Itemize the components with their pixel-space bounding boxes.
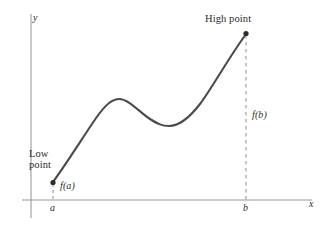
f-of-a-label: f(a): [60, 181, 75, 192]
function-curve: [53, 34, 246, 182]
f-of-b-label: f(b): [252, 110, 267, 121]
low-point-label: Lowpoint: [29, 148, 51, 171]
high-point-label: High point: [205, 13, 251, 24]
figure-canvas: [0, 0, 334, 229]
high-point-marker: [243, 31, 248, 36]
low-point-marker: [50, 180, 55, 185]
calculus-extrema-figure: y x a b f(a) f(b) Lowpoint High point: [0, 0, 334, 229]
x-axis-label: x: [309, 199, 314, 210]
x-tick-label-a: a: [50, 203, 55, 214]
y-axis-label: y: [33, 13, 38, 24]
x-tick-label-b: b: [243, 203, 248, 214]
low-point-label-line2: point: [29, 159, 51, 170]
low-point-label-line1: Low: [29, 148, 49, 159]
